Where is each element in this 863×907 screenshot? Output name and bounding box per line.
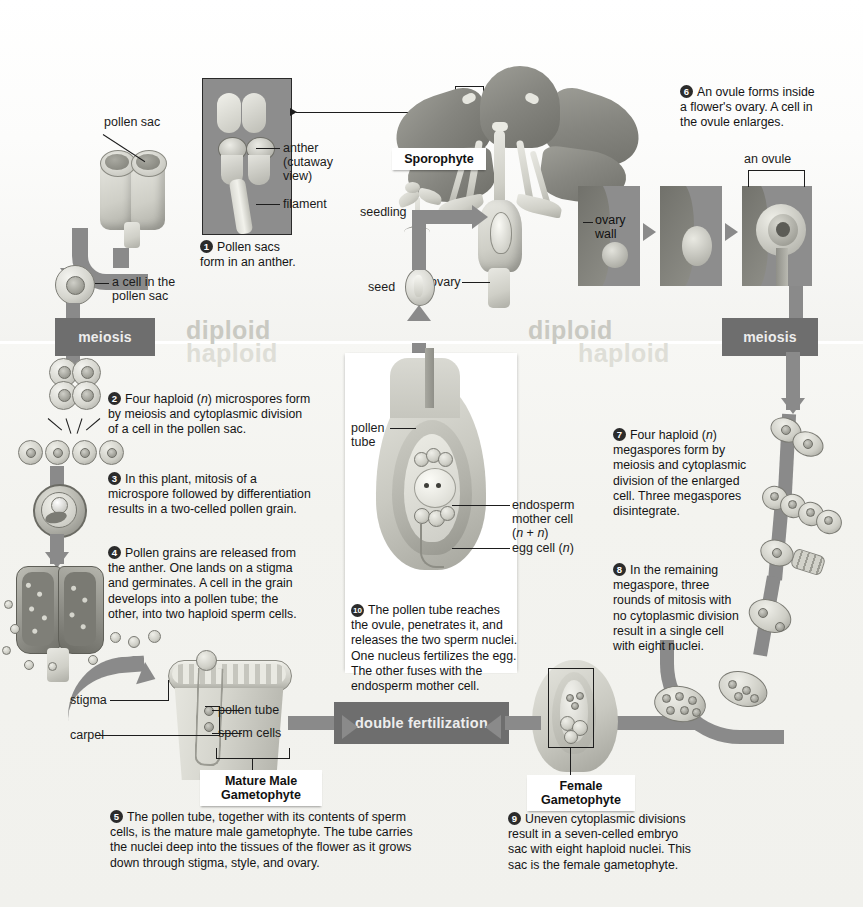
step-1-number: 1	[200, 240, 213, 253]
step-7-line-3: meiosis and cytoplasmic	[613, 458, 746, 472]
step-2: 2Four haploid (n) microspores form by me…	[108, 392, 313, 438]
label-stigma: stigma	[70, 693, 107, 708]
ovary-wall-leader	[583, 222, 593, 223]
step-10-line-1: The pollen tube reaches	[368, 603, 500, 617]
step-3-number: 3	[108, 472, 121, 485]
megaspore-pipe-arrowhead	[781, 398, 805, 414]
step-9-line-2: result in a seven-celled embryo	[508, 827, 678, 841]
label-a-cell-l2: pollen sac	[112, 289, 168, 304]
step-5-line-3: the nuclei deep into the tissues of the …	[110, 840, 411, 854]
label-sperm-cells: sperm cells	[218, 726, 281, 741]
label-anther-l1: anther	[283, 141, 318, 156]
female-gametophyte-stem	[570, 748, 571, 776]
pollen-sac-cell-nucleus	[66, 276, 85, 295]
step-10-number: 10	[351, 604, 364, 617]
stigma-leader-v	[168, 680, 169, 701]
ovule-plate-3	[742, 186, 812, 286]
step-6-number: 6	[680, 85, 693, 98]
step-2-line-3: of a cell in the pollen sac.	[108, 422, 246, 436]
step-3: 3In this plant, mitosis of a microspore …	[108, 472, 320, 518]
step-8-line-5: result in a single cell	[613, 624, 724, 638]
callout-female-line-1: Female	[559, 779, 602, 793]
ovule-arrow-1	[643, 223, 656, 241]
step-9-line-3: sac with eight haploid nuclei. This	[508, 842, 691, 856]
df-arrow-head-left	[485, 715, 501, 739]
step-6-line-2: a flower's ovary. A cell in	[680, 100, 813, 114]
step-3-line-3: results in a two-celled pollen grain.	[108, 502, 297, 516]
label-carpel: carpel	[70, 728, 104, 743]
filament-leader	[256, 204, 280, 205]
label-endosperm-l2: mother cell	[512, 512, 573, 527]
step-8-number: 8	[613, 563, 626, 576]
meiosis-box-right: meiosis	[722, 318, 818, 356]
label-endosperm-l1: endosperm	[512, 498, 575, 513]
step-8-line-3: rounds of mitosis with	[613, 593, 731, 607]
step-7-line-2: megaspores form by	[613, 443, 725, 457]
an-ovule-bracket	[748, 170, 805, 187]
ovule-arrow-2	[725, 223, 738, 241]
figure-canvas: diploid haploid diploid haploid pollen s…	[0, 0, 863, 907]
ovule-plate-2	[660, 186, 722, 286]
step-7-line-6: disintegrate.	[613, 504, 680, 518]
step-5-line-1: The pollen tube, together with its conte…	[127, 810, 406, 824]
endosperm-leader	[452, 505, 510, 506]
step-10-line-4: One nucleus fertilizes the egg.	[351, 649, 516, 663]
label-seedling: seedling	[360, 205, 407, 220]
seed-embryo	[414, 275, 423, 297]
inset-connector-arrow	[290, 108, 297, 116]
label-anther-l3: view)	[283, 169, 312, 184]
label-pollen-sac: pollen sac	[104, 115, 160, 130]
step-5: 5The pollen tube, together with its cont…	[110, 810, 510, 871]
step-5-line-4: down through stigma, style, and ovary.	[110, 856, 320, 870]
step-2-number: 2	[108, 392, 121, 405]
step-1: 1Pollen sacs form in an anther.	[200, 240, 330, 270]
step-8-line-4: no cytoplasmic division	[613, 609, 739, 623]
step-7-line-1: Four haploid (n)	[630, 428, 717, 442]
step-4-line-1: Pollen grains are released from	[125, 546, 296, 560]
step-6-line-1: An ovule forms inside	[697, 85, 815, 99]
step-7: 7Four haploid (n) megaspores form by mei…	[613, 428, 763, 519]
label-a-cell-l1: a cell in the	[112, 275, 175, 290]
callout-male-line-2: Gametophyte	[221, 788, 301, 802]
df-arrow-head-right	[342, 715, 358, 739]
arrow-seed-to-seedling	[412, 236, 426, 270]
step-7-number: 7	[613, 428, 626, 441]
label-ovary-wall-l1: ovary	[595, 213, 626, 228]
label-egg-cell: egg cell (n)	[512, 541, 574, 556]
step-10-line-3: releases the two sperm nuclei.	[351, 633, 517, 647]
step-9-line-4: sac is the female gametophyte.	[508, 858, 678, 872]
step-9: 9Uneven cytoplasmic divisions result in …	[508, 812, 738, 873]
label-pollen-tube-center-l1: pollen	[351, 421, 384, 436]
anther-leader	[256, 148, 280, 149]
step-2-line-1: Four haploid (n) microspores form	[125, 392, 310, 406]
callout-female-line-2: Gametophyte	[541, 793, 621, 807]
step-8-line-6: with eight nuclei.	[613, 639, 704, 653]
haploid-label-left: haploid	[186, 339, 278, 368]
step-4: 4Pollen grains are released from the ant…	[108, 546, 320, 622]
step-3-line-1: In this plant, mitosis of a	[125, 472, 257, 486]
male-gametophyte-bracket	[216, 748, 290, 759]
step-4-line-3: and germinates. A cell in the grain	[108, 576, 293, 590]
step-4-line-5: other, into two haploid sperm cells.	[108, 607, 297, 621]
df-arrow-in-right-shaft	[505, 716, 541, 730]
callout-sporophyte: Sporophyte	[392, 148, 486, 170]
arrow-elbow-head	[472, 205, 488, 229]
female-gametophyte-box	[548, 668, 594, 748]
step-8-line-2: megaspore, three	[613, 578, 709, 592]
step-10-line-5: The other fuses with the	[351, 664, 482, 678]
carpel-leader	[96, 735, 218, 736]
label-pollen-tube-bottom: pollen tube	[218, 703, 279, 718]
stigma-leader	[110, 700, 168, 701]
step-10-line-2: the ovule, penetrates it, and	[351, 618, 503, 632]
step-9-number: 9	[508, 812, 521, 825]
step-10: 10The pollen tube reaches the ovule, pen…	[351, 603, 521, 694]
step-3-line-2: microspore followed by differentiation	[108, 487, 311, 501]
double-fertilization-box: double fertilization	[334, 702, 509, 744]
step-6-line-3: the ovule enlarges.	[680, 115, 784, 129]
label-filament: filament	[283, 197, 327, 212]
step-5-number: 5	[110, 810, 123, 823]
arrow-to-seed-head	[407, 305, 431, 321]
callout-female-gametophyte: Female Gametophyte	[527, 775, 635, 811]
label-endosperm-l3: (n + n)	[512, 526, 549, 541]
egg-cell-leader	[452, 548, 510, 549]
